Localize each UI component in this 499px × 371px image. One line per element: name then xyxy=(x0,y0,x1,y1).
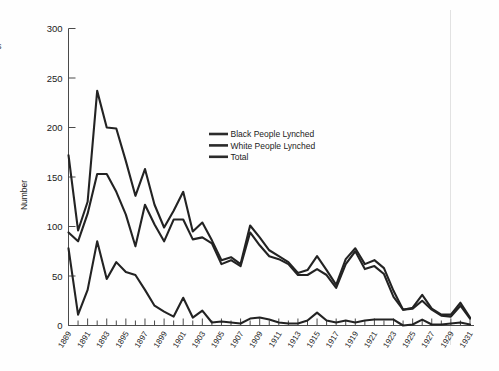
lynching-statistics-line-chart: s 300250200150100500 1889189118931895189… xyxy=(0,0,499,371)
y-tick-label: 0 xyxy=(57,320,62,331)
x-tick-label: 1903 xyxy=(190,329,207,349)
x-tick-label: 1925 xyxy=(400,329,417,349)
x-tick-label: 1923 xyxy=(381,329,398,349)
y-tick-label: 100 xyxy=(47,221,63,232)
x-tick-label: 1889 xyxy=(56,329,73,349)
x-tick-label: 1931 xyxy=(458,329,475,349)
x-tick-label: 1891 xyxy=(75,329,92,349)
y-tick-label: 50 xyxy=(52,271,63,282)
x-tick-label: 1895 xyxy=(114,329,131,349)
x-tick-label: 1905 xyxy=(209,329,226,349)
x-tick-label: 1911 xyxy=(267,329,284,349)
x-tick-label: 1899 xyxy=(152,329,169,349)
y-tick-label: 250 xyxy=(47,73,63,84)
x-tick-label: 1921 xyxy=(362,329,379,349)
x-tick-label: 1907 xyxy=(228,329,245,349)
x-tick-label: 1909 xyxy=(248,329,265,349)
series-line-white-people-lynched xyxy=(69,241,471,325)
data-series-lines xyxy=(69,91,471,326)
x-tick-label: 1901 xyxy=(171,329,188,349)
x-tick-label: 1919 xyxy=(343,329,360,349)
x-tick-label: 1915 xyxy=(305,329,322,349)
left-edge-text-fragment: s xyxy=(0,41,1,51)
y-axis-title: Number xyxy=(19,180,29,210)
x-axis: 1889189118931895189718991901190319051907… xyxy=(56,319,475,350)
legend-label: Total xyxy=(231,152,249,162)
series-line-total xyxy=(69,91,471,318)
y-tick-label: 200 xyxy=(47,122,63,133)
x-tick-label: 1917 xyxy=(324,329,341,349)
chart-legend: Black People LynchedWhite People Lynched… xyxy=(209,129,316,162)
x-tick-label: 1929 xyxy=(439,329,456,349)
x-tick-label: 1897 xyxy=(133,329,150,349)
y-tick-label: 150 xyxy=(47,172,63,183)
x-tick-label: 1913 xyxy=(286,329,303,349)
series-line-black-people-lynched xyxy=(69,174,471,319)
legend-label: White People Lynched xyxy=(231,141,316,151)
legend-label: Black People Lynched xyxy=(231,129,315,139)
x-tick-label: 1893 xyxy=(95,329,112,349)
chart-canvas: 300250200150100500 188918911893189518971… xyxy=(0,0,499,371)
x-tick-label: 1927 xyxy=(420,329,437,349)
y-tick-label: 300 xyxy=(47,23,63,34)
